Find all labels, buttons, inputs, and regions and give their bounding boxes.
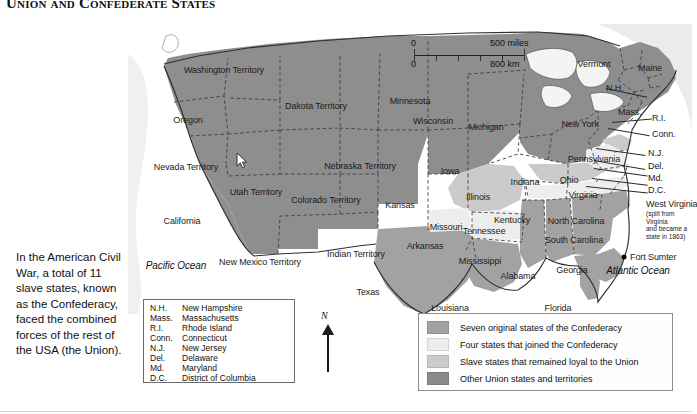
map-label-mass: Mass. <box>618 107 642 117</box>
map-label-south-carolina: South Carolina <box>545 235 603 245</box>
key-swatch-other-union <box>427 372 449 385</box>
map-label-arkansas: Arkansas <box>407 241 444 251</box>
abbreviation-row: D.C. District of Columbia <box>150 373 289 383</box>
map-label-georgia: Georgia <box>556 265 587 275</box>
map-label-dc: D.C. <box>648 185 666 195</box>
west-virginia-note: (split from Virginia and became a state … <box>646 210 692 240</box>
compass-north-label: N <box>321 310 328 321</box>
map-label-minnesota: Minnesota <box>390 96 431 106</box>
fort-sumter-marker <box>622 255 627 260</box>
key-swatch-seven-original <box>427 321 449 334</box>
map-label-dakota-territory: Dakota Territory <box>285 101 347 111</box>
map-label-conn: Conn. <box>652 129 676 139</box>
abbreviation-row: N.J. New Jersey <box>150 343 289 353</box>
map-label-kentucky: Kentucky <box>494 215 530 225</box>
abbreviation-name: Rhode Island <box>182 323 289 333</box>
map-label-washington-territory: Washington Territory <box>184 65 264 76</box>
key-label-seven-original: Seven original states of the Confederacy <box>460 323 622 333</box>
map-label-west-virginia: West Virginia <box>646 199 697 209</box>
map-label-florida: Florida <box>545 303 572 313</box>
abbreviation-name: Massachusetts <box>182 313 289 323</box>
scale-miles-end: 500 miles <box>490 38 529 48</box>
map-label-virginia: Virginia <box>568 190 597 200</box>
map-key-legend: Seven original states of the Confederacy… <box>418 313 673 391</box>
map-label-md: Md. <box>648 173 663 183</box>
abbreviation-code: N.H. <box>150 303 182 313</box>
map-label-ri: R.I. <box>652 113 666 123</box>
map-label-new-mexico-territory: New Mexico Territory <box>219 257 301 268</box>
scale-tick <box>436 55 437 61</box>
scale-tick <box>480 55 481 61</box>
key-row-four-joined: Four states that joined the Confederacy <box>419 336 672 353</box>
map-label-maine: Maine <box>638 63 662 73</box>
map-label-fort-sumter: Fort Sumter <box>630 252 676 262</box>
page-title: Union and Confederate States <box>6 0 215 12</box>
map-label-pacific-ocean: Pacific Ocean <box>146 261 206 271</box>
abbreviation-code: Md. <box>150 363 182 373</box>
bottom-divider <box>0 411 692 412</box>
map-label-nh: N.H. <box>606 83 624 93</box>
map-label-missouri: Missouri <box>430 222 463 232</box>
map-label-michigan: Michigan <box>468 122 503 132</box>
abbreviation-row: N.H. New Hampshire <box>150 303 289 313</box>
abbreviation-name: New Jersey <box>182 343 289 353</box>
north-arrow-shaft <box>327 334 329 372</box>
abbreviation-row: Mass. Massachusetts <box>150 313 289 323</box>
abbreviation-name: New Hampshire <box>182 303 289 313</box>
abbreviation-name: District of Columbia <box>182 373 289 383</box>
abbreviation-row: Del. Delaware <box>150 353 289 363</box>
abbreviation-code: Conn. <box>150 333 182 343</box>
map-label-illinois: Illinois <box>466 192 490 202</box>
key-swatch-four-joined <box>427 338 449 351</box>
key-row-other-union: Other Union states and territories <box>419 370 672 387</box>
key-row-seven-original: Seven original states of the Confederacy <box>419 319 672 336</box>
map-label-oregon: Oregon <box>173 115 202 125</box>
map-label-mississippi: Mississippi <box>459 256 501 266</box>
scale-rule <box>414 55 524 56</box>
map-label-texas: Texas <box>356 287 379 297</box>
abbreviation-legend: N.H. New Hampshire Mass. Massachusetts R… <box>143 299 295 383</box>
map-label-utah-territory: Utah Territory <box>230 187 282 198</box>
abbreviation-name: Connecticut <box>182 333 289 343</box>
abbreviation-row: Conn. Connecticut <box>150 333 289 343</box>
map-label-indiana: Indiana <box>511 177 540 187</box>
map-label-north-carolina: North Carolina <box>548 216 605 226</box>
abbreviation-code: Mass. <box>150 313 182 323</box>
key-label-four-joined: Four states that joined the Confederacy <box>460 340 618 350</box>
abbreviation-row: R.I. Rhode Island <box>150 323 289 333</box>
map-label-atlantic-ocean: Atlantic Ocean <box>606 266 670 276</box>
caption-text: In the American Civil War, a total of 11… <box>16 250 128 359</box>
abbreviation-code: D.C. <box>150 373 182 383</box>
abbreviation-code: R.I. <box>150 323 182 333</box>
map-label-tennessee: Tennessee <box>463 226 506 236</box>
key-label-slave-loyal: Slave states that remained loyal to the … <box>460 357 639 367</box>
abbreviation-name: Maryland <box>182 363 289 373</box>
scale-km-start: 0 <box>411 59 416 69</box>
scale-km-end: 800 km <box>490 59 520 69</box>
map-label-kansas: Kansas <box>385 200 414 210</box>
map-label-iowa: Iowa <box>441 166 460 176</box>
scale-tick <box>458 55 459 61</box>
map-label-indian-territory: Indian Territory <box>327 249 385 260</box>
map-label-vermont: Vermont <box>578 59 611 69</box>
key-swatch-slave-loyal <box>427 355 449 368</box>
scale-miles-start: 0 <box>411 38 416 48</box>
mouse-cursor-icon <box>236 152 248 170</box>
map-label-california: California <box>163 216 200 226</box>
map-label-colorado-territory: Colorado Territory <box>291 195 361 206</box>
map-label-new-york: New York <box>561 119 598 129</box>
map-label-del: Del. <box>648 161 664 171</box>
map-label-alabama: Alabama <box>501 271 536 281</box>
map-label-ohio: Ohio <box>560 175 579 185</box>
map-label-wisconsin: Wisconsin <box>413 116 453 126</box>
map-label-nj: N.J. <box>648 148 664 158</box>
abbreviation-code: Del. <box>150 353 182 363</box>
scale-bar: 0 500 miles 0 800 km <box>408 40 540 70</box>
abbreviation-name: Delaware <box>182 353 289 363</box>
key-label-other-union: Other Union states and territories <box>460 374 593 384</box>
key-row-slave-loyal: Slave states that remained loyal to the … <box>419 353 672 370</box>
scale-tick <box>524 55 525 61</box>
compass-rose: N <box>318 310 342 372</box>
map-label-nebraska-territory: Nebraska Territory <box>324 161 396 171</box>
